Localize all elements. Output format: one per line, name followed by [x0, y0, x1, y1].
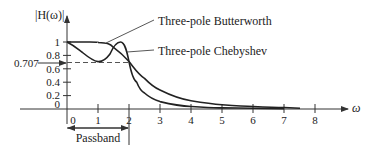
y-tick-label: 0 — [55, 98, 61, 110]
x-tick-label: 5 — [219, 114, 225, 126]
reference-value-label: 0.707 — [14, 57, 39, 69]
butterworth-leader-line — [106, 20, 154, 43]
y-tick-label: 0.4 — [46, 76, 60, 88]
passband-label: Passband — [76, 131, 121, 145]
x-tick-label: 4 — [188, 114, 194, 126]
filter-response-chart: 1 0.8 0.6 0.4 0.2 0 0 1 2 3 4 5 6 7 8 |H… — [0, 0, 374, 152]
y-tick-label: 0.8 — [46, 49, 60, 61]
x-tick-label: 0 — [70, 114, 76, 126]
y-tick-label: 0.6 — [46, 63, 60, 75]
x-tick-labels: 0 1 2 3 4 5 6 7 8 — [70, 114, 318, 126]
x-tick-label: 8 — [312, 114, 318, 126]
x-tick-label: 6 — [250, 114, 256, 126]
y-tick-labels: 1 0.8 0.6 0.4 0.2 0 — [46, 36, 60, 110]
chebyshev-label: Three-pole Chebyshev — [158, 44, 267, 58]
x-tick-label: 7 — [281, 114, 287, 126]
x-tick-label: 3 — [157, 114, 163, 126]
chebyshev-leader-line — [127, 50, 154, 52]
x-axis-label: ω — [352, 101, 360, 115]
y-tick-label: 1 — [55, 36, 61, 48]
x-tick-label: 1 — [95, 114, 101, 126]
y-axis-label: |H(ω)| — [35, 8, 64, 22]
butterworth-label: Three-pole Butterworth — [158, 14, 272, 28]
